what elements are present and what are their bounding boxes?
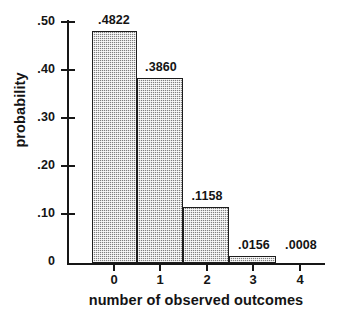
bar-category-4 [276, 262, 322, 263]
y-tick-label: .10 [15, 206, 55, 220]
x-axis-title: number of observed outcomes [67, 292, 325, 308]
y-tick-label: .20 [15, 158, 55, 172]
bar-category-1 [137, 78, 183, 263]
bar-value-label-1: .3860 [126, 60, 196, 74]
x-tick-mark [252, 265, 254, 271]
x-tick-label: 0 [99, 272, 129, 287]
y-tick-mark [61, 165, 75, 167]
y-tick-mark [61, 117, 75, 119]
bar-value-label-4: .0008 [266, 238, 336, 252]
x-tick-label: 3 [238, 272, 268, 287]
x-tick-mark [113, 265, 115, 271]
x-tick-mark [299, 265, 301, 271]
bar-value-label-2: .1158 [172, 189, 242, 203]
y-tick-label: .50 [15, 14, 55, 28]
y-tick-label: .30 [15, 110, 55, 124]
probability-bar-chart: probability .50 .40 .30 .20 .10 0 .4822 … [0, 0, 337, 319]
y-tick-label: 0 [15, 254, 55, 268]
y-tick-mark [61, 213, 75, 215]
bar-category-3 [229, 256, 276, 263]
x-tick-mark [206, 265, 208, 271]
x-tick-label: 4 [285, 272, 315, 287]
x-tick-label: 2 [192, 272, 222, 287]
y-tick-mark [61, 69, 75, 71]
x-tick-mark [159, 265, 161, 271]
x-axis-line [67, 263, 325, 265]
bar-value-label-0: .4822 [79, 13, 149, 27]
y-tick-mark [61, 21, 75, 23]
bar-category-2 [183, 207, 229, 263]
y-axis-line [67, 20, 69, 265]
x-tick-label: 1 [145, 272, 175, 287]
y-tick-label: .40 [15, 62, 55, 76]
